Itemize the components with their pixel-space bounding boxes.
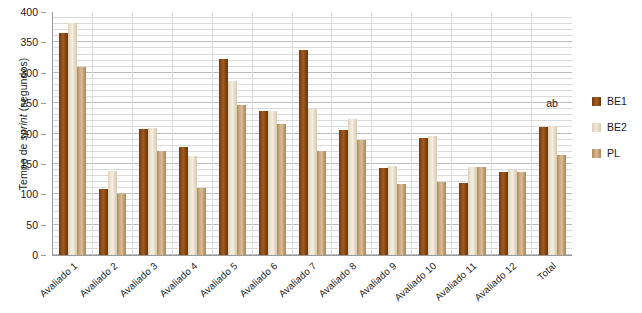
y-axis-tick-label: 200 [20, 128, 38, 140]
bar-group [412, 12, 452, 255]
y-axis-tick-mark [41, 164, 46, 165]
y-axis-tick-mark [41, 194, 46, 195]
legend-label: BE2 [607, 121, 627, 133]
y-axis-tick-label: 100 [20, 188, 38, 200]
x-axis-label-slot: Avaliado 12 [491, 256, 531, 312]
bar-pl [517, 172, 526, 255]
bar-pl [117, 194, 126, 255]
bar-be1 [99, 189, 108, 255]
bar-pl [357, 140, 366, 255]
bar-group [93, 12, 133, 255]
legend-label: BE1 [607, 95, 627, 107]
y-axis-tick-label: 350 [20, 36, 38, 48]
x-axis-label: Total [535, 260, 558, 282]
bar-be1 [299, 50, 308, 255]
bar-be2 [148, 128, 157, 255]
y-axis-tick-label: 150 [20, 158, 38, 170]
bar-be1 [139, 129, 148, 255]
y-axis-tick-label: 300 [20, 67, 38, 79]
bar-be1 [499, 172, 508, 255]
bar-be1 [59, 33, 68, 255]
legend-item-pl[interactable]: PL [592, 147, 627, 159]
legend-swatch-icon [592, 149, 601, 158]
x-axis-label: Avaliado 1 [37, 260, 79, 299]
bar-pl [437, 182, 446, 255]
bar-be2 [188, 156, 197, 255]
bar-be1 [379, 168, 388, 255]
legend-item-be1[interactable]: BE1 [592, 95, 627, 107]
bar-be2 [68, 23, 77, 255]
bar-be1 [219, 59, 228, 255]
y-axis-tick-label: 250 [20, 97, 38, 109]
y-axis-tick-mark [41, 225, 46, 226]
bar-be2 [468, 167, 477, 255]
legend-label: PL [607, 147, 620, 159]
bar-group [293, 12, 333, 255]
y-axis-tick-labels: 400350300250200150100500 [0, 12, 46, 255]
bar-be1 [259, 111, 268, 255]
significance-annotation: ab [546, 97, 558, 109]
bar-be1 [339, 130, 348, 255]
bar-group [452, 12, 492, 255]
bar-pl [557, 155, 566, 255]
bar-group [213, 12, 253, 255]
bar-pl [77, 67, 86, 255]
bar-pl [477, 167, 486, 255]
bar-be1 [459, 183, 468, 255]
y-axis-tick-mark [41, 42, 46, 43]
bar-be2 [268, 111, 277, 255]
bar-pl [197, 188, 206, 255]
bar-group [53, 12, 93, 255]
bar-group [492, 12, 532, 255]
bar-group [372, 12, 412, 255]
bar-be1 [539, 127, 548, 255]
sprint-time-bar-chart: Tempo de sprint (segundos) 4003503002502… [0, 0, 642, 313]
x-axis-category-labels: Avaliado 1Avaliado 2Avaliado 3Avaliado 4… [52, 256, 571, 312]
bar-pl [157, 151, 166, 255]
bar-be2 [388, 166, 397, 255]
bar-be2 [508, 170, 517, 255]
y-axis-tick-mark [41, 134, 46, 135]
y-axis-tick-mark [41, 103, 46, 104]
bar-group [133, 12, 173, 255]
bar-be1 [419, 138, 428, 255]
legend-swatch-icon [592, 97, 601, 106]
bar-group [173, 12, 213, 255]
bar-be2 [228, 81, 237, 255]
y-axis-tick-mark [41, 12, 46, 13]
y-axis-tick-mark [41, 255, 46, 256]
legend-swatch-icon [592, 123, 601, 132]
bar-group: ab [532, 12, 572, 255]
x-axis-label-slot: Total [531, 256, 571, 312]
y-axis-tick-label: 50 [26, 219, 38, 231]
plot-area: ab [52, 12, 572, 256]
bar-group [253, 12, 293, 255]
bar-group [332, 12, 372, 255]
y-axis-tick-mark [41, 73, 46, 74]
bar-pl [317, 151, 326, 255]
y-axis-tick-label: 400 [20, 6, 38, 18]
bar-be1 [179, 147, 188, 255]
bar-be2 [428, 136, 437, 255]
bar-be2 [348, 119, 357, 255]
y-axis-tick-label: 0 [32, 249, 38, 261]
bar-pl [237, 105, 246, 255]
bar-groups: ab [53, 12, 572, 255]
bar-pl [397, 184, 406, 255]
bar-pl [277, 124, 286, 255]
bar-be2 [308, 109, 317, 255]
legend-item-be2[interactable]: BE2 [592, 121, 627, 133]
bar-be2 [108, 171, 117, 255]
bar-be2 [548, 126, 557, 255]
chart-legend: BE1BE2PL [592, 95, 627, 159]
